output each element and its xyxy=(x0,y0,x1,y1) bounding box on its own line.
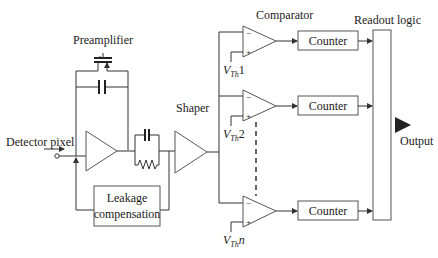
threshold-n-label: VThn xyxy=(223,233,245,249)
threshold-2-label: VTh2 xyxy=(223,127,245,143)
counter-n-label: Counter xyxy=(309,204,348,218)
preamplifier: Preamplifier xyxy=(73,33,135,171)
detector-pixel-input: Detector pixel xyxy=(6,135,86,158)
preamplifier-label: Preamplifier xyxy=(73,33,133,47)
minus-pin: − xyxy=(246,28,251,38)
input-node-icon xyxy=(55,154,59,158)
output-label: Output xyxy=(400,134,434,148)
leakage-label-line2: compensation xyxy=(94,207,161,221)
counter-1-label: Counter xyxy=(309,34,348,48)
plus-pin: + xyxy=(246,111,251,121)
detector-pixel-label: Detector pixel xyxy=(6,135,75,149)
channel-2: − + VTh2 Counter xyxy=(223,90,372,143)
shaper-triangle-icon xyxy=(175,131,207,173)
plus-pin: + xyxy=(246,217,251,227)
shaper: Shaper xyxy=(175,101,219,173)
readout-logic-label: Readout logic xyxy=(354,13,421,27)
channel-n: − + VThn Counter xyxy=(223,196,372,249)
photon-counting-readout-diagram: Detector pixel Preamplifier xyxy=(0,0,438,258)
minus-pin: − xyxy=(246,198,251,208)
channel-1: − + VTh1 Counter xyxy=(223,26,372,79)
comparator-label: Comparator xyxy=(256,8,313,22)
shaping-resistor-icon xyxy=(135,160,159,169)
plus-pin: + xyxy=(246,47,251,57)
threshold-1-label: VTh1 xyxy=(223,63,245,79)
leakage-label-line1: Leakage xyxy=(107,191,148,205)
readout-logic-box xyxy=(373,30,391,220)
counter-2-label: Counter xyxy=(309,99,348,113)
shaper-label: Shaper xyxy=(176,101,209,115)
minus-pin: − xyxy=(246,92,251,102)
preamplifier-triangle-icon xyxy=(86,131,117,171)
